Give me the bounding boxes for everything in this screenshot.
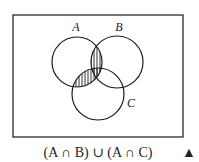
venn-diagram: A B C (A ∩ B) ∪ (A ∩ C) ▲ (0, 0, 199, 162)
set-a-label: A (71, 20, 80, 34)
caption: (A ∩ B) ∪ (A ∩ C) (44, 145, 153, 161)
triangle-marker-icon: ▲ (182, 145, 196, 160)
set-c-label: C (127, 96, 136, 110)
set-b-label: B (115, 20, 123, 34)
